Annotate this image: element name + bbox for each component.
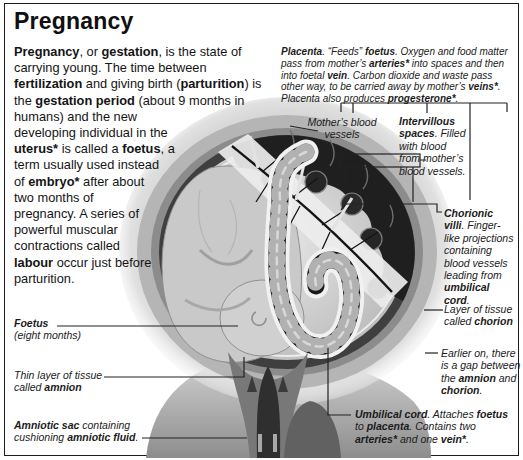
annotation-intervillous-spaces: Intervillous spaces. Filled with blood f… xyxy=(399,115,467,177)
annotation-foetus: Foetus (eight months) xyxy=(14,317,124,342)
annotation-placenta: Placenta. “Feeds” foetus. Oxygen and foo… xyxy=(281,46,515,105)
annotation-umbilical-cord: Umbilical cord. Attaches foetus to place… xyxy=(355,408,510,445)
annotation-mothers-blood-vessels: Mother’s blood vessels xyxy=(300,116,384,141)
annotation-amnion: Thin layer of tissue called amnion xyxy=(14,369,126,394)
page-title: Pregnancy xyxy=(14,8,133,35)
annotation-amnion-chorion-gap: Earlier on, there is a gap between the a… xyxy=(441,347,521,397)
intro-paragraph: Pregnancy, or gestation, is the state of… xyxy=(14,44,266,290)
annotation-chorion: Layer of tissue called chorion xyxy=(444,303,519,328)
encyclopedia-page: Pregnancy Pregnancy, or gestation, is th… xyxy=(0,0,523,460)
annotation-amniotic-sac: Amniotic sac containing cushioning amnio… xyxy=(14,419,154,444)
annotation-chorionic-villi: Chorionic villi. Finger-like projections… xyxy=(444,207,516,306)
